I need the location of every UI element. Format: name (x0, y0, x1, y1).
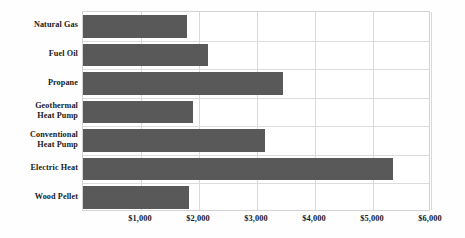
horizontal-gridline (83, 155, 429, 156)
value-tick-label: $4,000 (302, 214, 326, 223)
category-tick-label: GeothermalHeat Pump (4, 97, 78, 126)
horizontal-gridline (83, 69, 429, 70)
category-tick-label: Wood Pellet (4, 182, 78, 211)
category-tick-label: Natural Gas (4, 11, 78, 40)
category-tick-label-line: Electric Heat (31, 163, 78, 173)
bar-chart: Natural GasFuel OilPropaneGeothermalHeat… (0, 0, 465, 238)
bar (83, 129, 265, 152)
category-tick-label-line: Conventional (30, 130, 78, 140)
horizontal-gridline (83, 98, 429, 99)
bar (83, 101, 193, 124)
vertical-gridline (431, 12, 432, 210)
value-tick-label: $1,000 (128, 214, 152, 223)
bar (83, 158, 393, 181)
horizontal-gridline (83, 126, 429, 127)
value-axis: $1,000$2,000$3,000$4,000$5,000$6,000 (82, 212, 430, 232)
bar (83, 186, 189, 209)
category-tick-label: Fuel Oil (4, 40, 78, 69)
horizontal-gridline (83, 41, 429, 42)
category-tick-label-line: Fuel Oil (49, 49, 78, 59)
bar (83, 15, 187, 38)
category-tick-label-line: Propane (48, 78, 78, 88)
category-tick-label: ConventionalHeat Pump (4, 125, 78, 154)
category-tick-label-line: Heat Pump (37, 111, 78, 121)
category-tick-label-line: Heat Pump (37, 140, 78, 150)
horizontal-gridline (83, 183, 429, 184)
category-tick-label-line: Geothermal (35, 101, 78, 111)
category-tick-label-line: Natural Gas (34, 20, 78, 30)
value-tick-label: $6,000 (418, 214, 442, 223)
category-tick-label-line: Wood Pellet (35, 192, 78, 202)
category-tick-label: Propane (4, 68, 78, 97)
bar (83, 72, 283, 95)
value-tick-label: $5,000 (360, 214, 384, 223)
category-tick-label: Electric Heat (4, 154, 78, 183)
value-tick-label: $2,000 (186, 214, 210, 223)
plot-area (82, 11, 430, 211)
category-axis: Natural GasFuel OilPropaneGeothermalHeat… (4, 11, 78, 211)
bar (83, 44, 208, 67)
value-tick-label: $3,000 (244, 214, 268, 223)
